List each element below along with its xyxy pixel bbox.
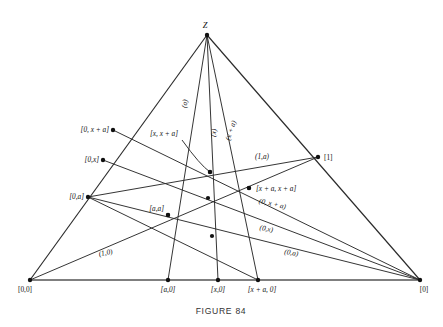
point-apex-z: Z <box>203 21 210 37</box>
pt-0a-marker <box>86 195 90 199</box>
pt-a0-marker <box>166 278 170 282</box>
point-pt-0xa: [0, x + a] <box>81 125 116 134</box>
dot-center-mid <box>206 196 210 200</box>
chord-0x-zero <box>103 160 420 280</box>
geometric-diagram: Z[0,0][a,0][x,0][x + a, 0][0][0, x + a][… <box>0 0 443 327</box>
pt-0x-marker <box>101 158 105 162</box>
cevian-z-a0 <box>168 35 207 280</box>
pt-xa0-label: [x + a, 0] <box>248 285 277 294</box>
apex-z-marker <box>205 33 209 37</box>
pt-zero-label: [0] <box>420 285 429 294</box>
cevian-z-x0 <box>207 35 218 280</box>
labeled-points-layer: Z[0,0][a,0][x,0][x + a, 0][0][0, x + a][… <box>18 21 428 294</box>
point-pt-0x: [0,x] <box>85 155 106 164</box>
figure-caption: FIGURE 84 <box>196 306 247 316</box>
point-pt-zero: [0] <box>418 278 428 294</box>
pt-zero-marker <box>418 278 422 282</box>
pt-one-marker <box>316 155 320 159</box>
pt-aa-marker <box>166 213 170 217</box>
pt-xa0-marker <box>256 278 260 282</box>
pt-0x-label: [0,x] <box>85 155 100 164</box>
pt-0xa-marker <box>111 128 115 132</box>
label-0-a: (0,a) <box>284 247 300 258</box>
point-pt-0a: [0,a] <box>69 192 90 201</box>
chord-origin-one <box>30 157 318 280</box>
point-origin: [0,0] <box>18 278 32 294</box>
label-x: (x) <box>209 127 219 137</box>
pt-x0-label: [x,0] <box>211 285 226 294</box>
figure-84-container: Z[0,0][a,0][x,0][x + a, 0][0][0, x + a][… <box>0 0 443 327</box>
pt-xa-xa-marker <box>247 186 251 190</box>
apex-z-label: Z <box>203 21 208 30</box>
pt-0xa-label: [0, x + a] <box>81 125 110 134</box>
origin-marker <box>28 278 32 282</box>
label-1-a: (1,a) <box>255 152 270 161</box>
pt-a0-label: [a,0] <box>161 285 176 294</box>
point-pt-xa-xa: [x + a, x + a] <box>247 184 297 193</box>
point-pt-one: [1] <box>316 153 333 162</box>
label-a: (a) <box>179 98 189 109</box>
pt-x-xa-label: [x, x + a] <box>150 129 178 138</box>
pt-x0-marker <box>216 278 220 282</box>
pt-x-xa-marker <box>208 170 212 174</box>
dot-lower-mid <box>210 234 214 238</box>
point-pt-x-xa: [x, x + a] <box>150 129 212 174</box>
chord-0a-zero <box>88 197 420 280</box>
pt-0a-label: [0,a] <box>69 192 84 201</box>
label-0-x: (0,x) <box>259 223 274 234</box>
pt-aa-label: [a,a] <box>149 204 164 213</box>
pt-xa-xa-label: [x + a, x + a] <box>256 184 296 193</box>
origin-label: [0,0] <box>18 285 32 294</box>
label-0-x-a: (0, x + a) <box>258 196 287 211</box>
edge-left <box>30 35 207 280</box>
pt-one-label: [1] <box>324 153 333 162</box>
label-1-0: (1,0) <box>98 247 114 259</box>
cevian-z-xa0 <box>207 35 258 280</box>
